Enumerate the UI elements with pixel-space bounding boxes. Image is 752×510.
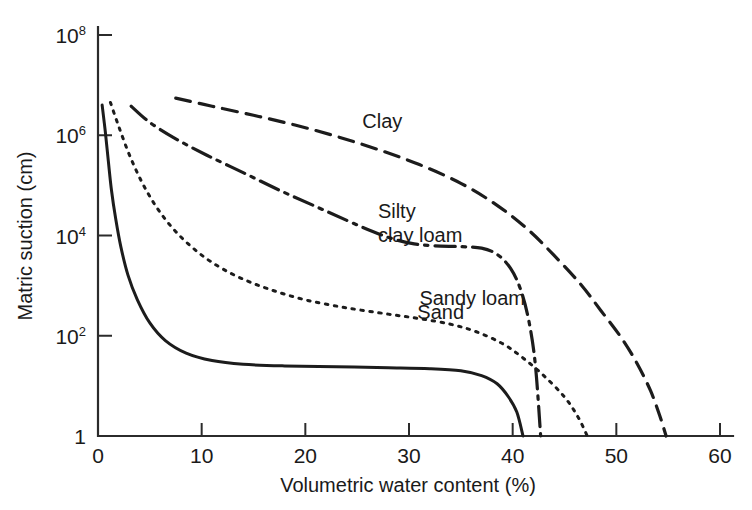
x-tick-label: 20 (294, 444, 317, 467)
x-tick-label: 30 (397, 444, 420, 467)
series-label-sand: Sand (417, 301, 464, 323)
y-tick-label: 108 (55, 23, 86, 47)
y-tick-label: 106 (55, 123, 86, 147)
curve-sandy-loam (110, 103, 587, 436)
y-axis-title: Matric suction (cm) (14, 152, 36, 321)
x-tick-label: 60 (708, 444, 731, 467)
x-axis-ticks: 0102030405060 (92, 423, 732, 467)
soil-water-retention-figure: 1102104106108 0102030405060 Clay Silty c… (0, 0, 752, 510)
series-label-silty-clay-loam-line2: clay loam (378, 224, 462, 246)
y-tick-label: 104 (55, 224, 86, 248)
x-tick-label: 50 (605, 444, 628, 467)
curve-group (102, 98, 666, 436)
curve-silty-clay-loam (131, 106, 540, 436)
x-tick-label: 0 (92, 444, 104, 467)
chart-canvas: 1102104106108 0102030405060 Clay Silty c… (0, 0, 752, 510)
x-axis-title: Volumetric water content (%) (280, 474, 536, 496)
y-axis-ticks: 1102104106108 (55, 23, 112, 448)
curve-sand (102, 105, 523, 436)
y-tick-label: 102 (55, 324, 86, 348)
x-tick-label: 40 (501, 444, 524, 467)
y-tick-label: 1 (74, 425, 86, 448)
curve-clay (176, 98, 666, 436)
series-label-silty-clay-loam-line1: Silty (378, 200, 416, 222)
series-label-clay: Clay (362, 110, 402, 132)
x-tick-label: 10 (190, 444, 213, 467)
